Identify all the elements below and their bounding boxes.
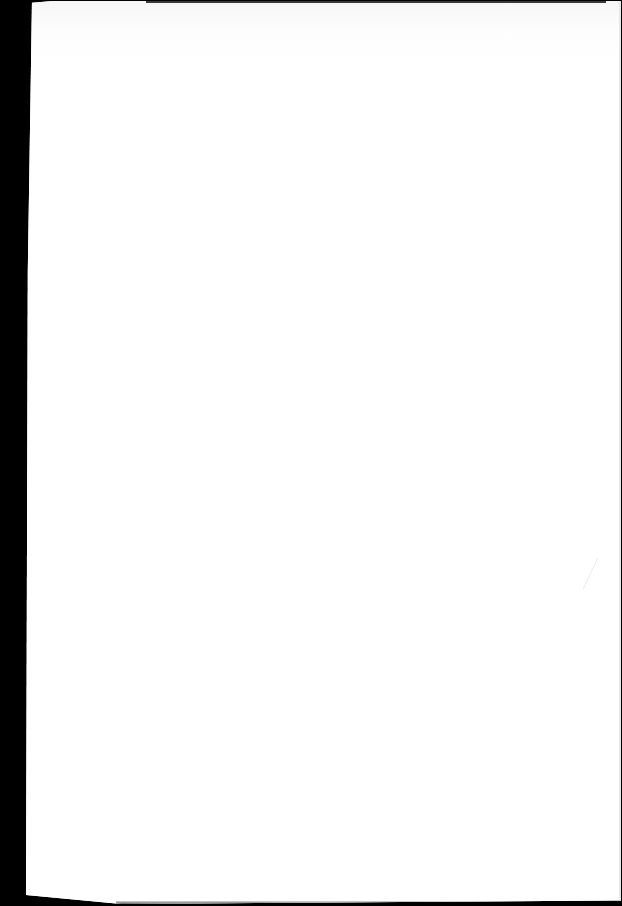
blank-scanned-page: [26, 1, 621, 904]
page-surface: [26, 1, 621, 904]
faint-mark: [583, 557, 599, 589]
top-scan-edge: [146, 1, 606, 3]
right-page-edge: [619, 1, 621, 904]
bottom-scan-edge: [116, 901, 621, 904]
